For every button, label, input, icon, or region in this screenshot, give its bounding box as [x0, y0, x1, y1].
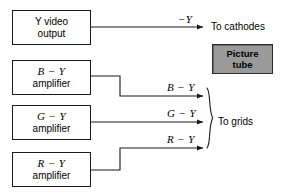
- block-b-y-amplifier: B − Y amplifier: [12, 60, 91, 95]
- wire-r-y: [91, 148, 203, 170]
- block-r-y-line2: amplifier: [33, 170, 71, 182]
- block-r-y-amplifier: R − Y amplifier: [12, 152, 91, 187]
- block-picture-tube-line2: tube: [232, 59, 252, 70]
- block-b-y-line2: amplifier: [33, 78, 71, 90]
- wire-label-minus-y: −Y: [178, 13, 192, 25]
- block-b-y-line1: B − Y: [38, 65, 66, 78]
- destination-label-cathodes: To cathodes: [211, 21, 265, 32]
- block-y-video-output: Y video output: [12, 10, 91, 45]
- block-r-y-line1: R − Y: [38, 157, 66, 170]
- curly-brace-stroke: [207, 88, 213, 148]
- block-g-y-amplifier: G − Y amplifier: [12, 105, 91, 140]
- block-diagram: Y video output B − Y amplifier G − Y amp…: [0, 0, 281, 195]
- block-y-video-line1: Y video: [35, 16, 68, 28]
- curly-brace-icon: [208, 88, 213, 118]
- wire-label-g-minus-y: G − Y: [167, 107, 196, 119]
- block-g-y-line1: G − Y: [37, 110, 66, 123]
- block-g-y-line2: amplifier: [33, 123, 71, 135]
- block-picture-tube: Picture tube: [212, 44, 273, 74]
- wire-label-b-minus-y: B − Y: [167, 81, 195, 93]
- block-picture-tube-line1: Picture: [226, 48, 258, 59]
- block-y-video-line2: output: [38, 28, 66, 40]
- wire-label-r-minus-y: R − Y: [167, 133, 195, 145]
- destination-label-grids: To grids: [218, 116, 253, 127]
